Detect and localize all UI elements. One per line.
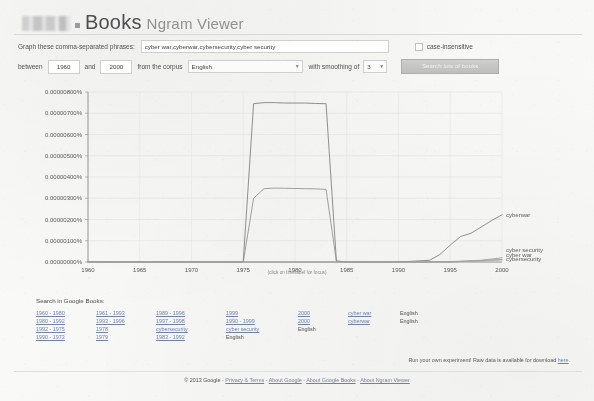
link-column: 19991990 - 1999cyber securityEnglish [226,310,298,341]
smoothing-label: with smoothing of [309,63,360,70]
book-search-link[interactable]: 1990 - 1999 [226,318,298,325]
search-in-books-section: Search in Google Books: 1960 - 19801980 … [0,297,594,341]
corpus-select-value: English [192,63,212,70]
case-insensitive-checkbox[interactable] [415,43,423,51]
book-search-link[interactable]: 2000 [298,310,348,317]
y-tick-label: 0.00000400% [45,174,83,180]
page-header: Books Ngram Viewer [0,0,594,36]
book-search-link[interactable]: cyber war [348,310,400,317]
corpus-select[interactable]: English ▼ [188,60,303,73]
series-label-cybersecurity[interactable]: cybersecurity [506,256,541,262]
phrases-row: Graph these comma-separated phrases: cas… [0,39,594,54]
footer-link[interactable]: About Ngram Viewer [360,377,410,383]
book-search-link[interactable]: 1990 - 1973 [36,334,96,341]
series-label-cyberwar[interactable]: cyberwar [506,212,530,218]
ngram-viewer-title: Ngram Viewer [147,16,244,31]
year-start-input[interactable] [48,60,80,74]
corpus-language-label: English [298,326,348,333]
logo-square-icon [75,23,80,28]
search-button[interactable]: Search lots of books [401,59,499,74]
experiment-text: Run your own experiment! Raw data is ava… [408,357,556,363]
y-tick-label: 0.00000100% [45,238,83,244]
copyright-text: © 2013 Google [184,377,220,383]
chart-gridlines [88,92,502,262]
smoothing-select[interactable]: 3 ▼ [363,60,387,73]
search-in-books-links: 1960 - 19801980 - 19921992 - 19751990 - … [36,310,594,341]
book-search-link[interactable]: 1980 - 1992 [36,318,96,325]
raw-data-download-link[interactable]: here [558,357,569,363]
between-label: between [18,63,43,70]
link-column: 1960 - 19801980 - 19921992 - 19751990 - … [36,310,96,341]
book-search-link[interactable]: 1961 - 1993 [96,310,156,317]
link-column: cyber warcyberwar [348,310,400,341]
link-column: EnglishEnglish [400,310,450,341]
chart-caption: (click on line/label for focus) [0,270,594,275]
footer-link[interactable]: Privacy & Terms [225,377,264,383]
smoothing-select-value: 3 [367,63,370,70]
book-search-link[interactable]: cybersecurity [156,326,226,333]
footer-link[interactable]: About Google [269,377,302,383]
book-search-link[interactable]: 1993 - 1996 [96,318,156,325]
google-logo-icon[interactable] [22,16,70,31]
logo-and-title[interactable]: Books Ngram Viewer [22,12,244,31]
corpus-language-label: English [400,318,450,325]
link-column: 1989 - 19961997 - 1998cybersecurity1983 … [156,310,226,341]
footer-links: - Privacy & Terms - About Google - About… [222,377,410,383]
book-search-link[interactable]: 1983 - 1992 [156,334,226,341]
link-column: 20002000English [298,310,348,341]
book-search-link[interactable]: 1960 - 1980 [36,310,96,317]
book-search-link[interactable]: 1979 [96,334,156,341]
book-search-link[interactable]: cyberwar [348,318,400,325]
phrases-input[interactable] [141,40,389,53]
and-label: and [85,63,96,70]
book-search-link[interactable]: 1989 - 1996 [156,310,226,317]
y-tick-label: 0.00000800% [45,89,83,95]
book-search-link[interactable]: 1997 - 1998 [156,318,226,325]
footer-link[interactable]: About Google Books [306,377,355,383]
books-title[interactable]: Books [85,12,142,32]
corpus-language-label: English [226,334,298,341]
search-in-books-title: Search in Google Books: [36,297,594,304]
corpus-label: from the corpus [137,63,182,70]
link-column: 1961 - 19931993 - 199619781979 [96,310,156,341]
ngram-chart[interactable]: 0.00000000%0.00000100%0.00000200%0.00000… [0,80,594,285]
case-insensitive-label: case-insensitive [427,43,473,50]
query-form: Graph these comma-separated phrases: cas… [0,36,594,75]
y-tick-label: 0.00000000% [45,259,83,265]
y-tick-label: 0.00000600% [45,132,83,138]
phrases-label: Graph these comma-separated phrases: [18,43,135,50]
book-search-link[interactable]: 1992 - 1975 [36,326,96,333]
y-tick-label: 0.00000200% [45,217,83,223]
year-end-input[interactable] [100,60,132,74]
copyright-line: © 2013 Google - Privacy & Terms - About … [0,377,594,384]
chart-y-tick-labels: 0.00000000%0.00000100%0.00000200%0.00000… [45,89,83,265]
y-tick-label: 0.00000300% [45,195,83,201]
chevron-down-icon: ▼ [379,64,384,69]
book-search-link[interactable]: 1978 [96,326,156,333]
experiment-period: . [569,357,571,363]
ngram-viewer-page: Books Ngram Viewer Graph these comma-sep… [0,0,594,401]
chart-canvas[interactable]: 0.00000000%0.00000100%0.00000200%0.00000… [0,80,594,285]
y-tick-label: 0.00000500% [45,153,83,159]
corpus-language-label: English [400,310,450,317]
experiment-line: Run your own experiment! Raw data is ava… [0,357,594,364]
book-search-link[interactable]: cyber security [226,326,298,333]
chevron-down-icon: ▼ [295,64,300,69]
footer-divider [14,371,582,372]
chart-series-labels[interactable]: cyberwarcyber securitycyber warcybersecu… [506,212,543,262]
header-divider [14,34,582,35]
book-search-link[interactable]: 1999 [226,310,298,317]
y-tick-label: 0.00000700% [45,110,83,116]
book-search-link[interactable]: 2000 [298,318,348,325]
case-insensitive-control[interactable]: case-insensitive [415,43,473,51]
range-and-corpus-row: between and from the corpus English ▼ wi… [0,58,594,75]
